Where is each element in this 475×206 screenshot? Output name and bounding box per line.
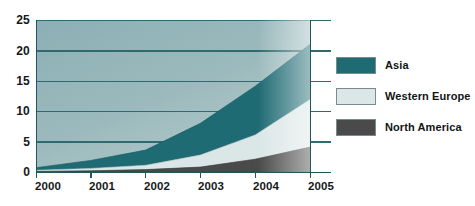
legend-swatch-asia [336, 57, 376, 74]
x-tick-label-2001: 2001 [79, 180, 125, 192]
x-tick-label-2000: 2000 [25, 180, 71, 192]
y-tick-label-5: 5 [4, 136, 30, 148]
legend-item-western-europe: Western Europe [336, 83, 472, 109]
y-tick-label-15: 15 [4, 75, 30, 87]
stacked-area-chart: 25 20 15 10 5 0 2000 2001 2002 2003 2004… [0, 0, 475, 206]
legend-swatch-western-europe [336, 88, 376, 105]
plot-right-fade [258, 20, 310, 172]
chart-legend: Asia Western Europe North America [336, 52, 472, 145]
legend-label-asia: Asia [385, 59, 409, 71]
legend-label-western-europe: Western Europe [385, 90, 471, 102]
x-tick-label-2005: 2005 [298, 180, 344, 192]
x-tick-label-2002: 2002 [134, 180, 180, 192]
y-tick-label-10: 10 [4, 105, 30, 117]
y-tick-label-25: 25 [4, 14, 30, 26]
x-tick-label-2004: 2004 [243, 180, 289, 192]
x-tick-label-2003: 2003 [188, 180, 234, 192]
legend-swatch-north-america [336, 119, 376, 136]
y-tick-label-0: 0 [4, 166, 30, 178]
legend-item-asia: Asia [336, 52, 472, 78]
y-tick-label-20: 20 [4, 45, 30, 57]
legend-item-north-america: North America [336, 114, 472, 140]
legend-label-north-america: North America [385, 121, 462, 133]
